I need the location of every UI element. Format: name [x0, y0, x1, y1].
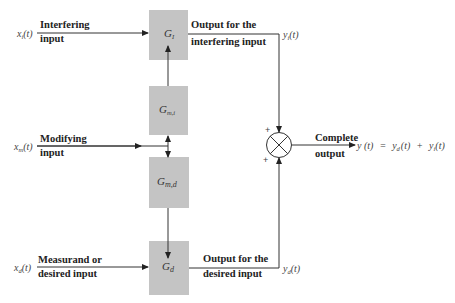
interfering-output-label-1: Output for the — [191, 19, 256, 30]
desired-input-label-2: desired input — [38, 268, 98, 279]
interfering-output-var: yi(t) — [282, 29, 299, 41]
desired-output-arrow — [189, 158, 279, 268]
complete-output-formula: y (t)=yd(t)+yi(t) — [356, 140, 445, 152]
modifying-input-label-1: Modifying — [40, 133, 87, 144]
desired-output-label-1: Output for the — [203, 253, 268, 264]
block-diagram: GI Gm,i Gm,d Gd xi(t) Interfering input … — [0, 0, 455, 303]
desired-input-var: xd(t) — [13, 262, 32, 274]
interfering-output-label-2: interfering input — [191, 36, 266, 47]
desired-output-var: yd(t) — [282, 263, 301, 275]
desired-input-label-1: Measurand or — [38, 254, 102, 265]
interfering-output-arrow — [188, 34, 279, 132]
complete-output-label-1: Complete — [315, 132, 358, 143]
desired-output-label-2: desired input — [203, 268, 263, 279]
interfering-input-var: xi(t) — [16, 28, 33, 40]
plus-sign-bottom: + — [263, 155, 268, 165]
plus-sign-top: + — [265, 125, 270, 135]
interfering-input-label-1: Interfering — [40, 19, 90, 30]
modifying-input-var: xm(t) — [13, 141, 33, 153]
interfering-input-label-2: input — [40, 33, 64, 44]
summing-junction — [267, 133, 292, 158]
complete-output-label-2: output — [315, 148, 345, 159]
modifying-input-label-2: input — [40, 147, 64, 158]
